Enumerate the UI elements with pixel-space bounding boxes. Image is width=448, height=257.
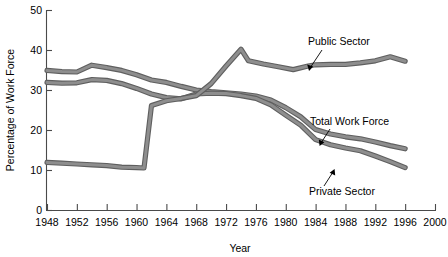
x-axis-title: Year: [229, 242, 251, 254]
x-tick-label: 1984: [304, 216, 328, 228]
x-tick-label: 1948: [35, 216, 59, 228]
public-sector-label: Public Sector: [308, 35, 370, 47]
x-tick-label: 1968: [185, 216, 209, 228]
y-tick-label: 10: [30, 164, 42, 176]
x-axis-tick-labels: 1948195219561960196419681972197619801984…: [35, 216, 447, 228]
x-tick-label: 1956: [95, 216, 119, 228]
x-tick-label: 1996: [393, 216, 417, 228]
total-work-force-label: Total Work Force: [310, 115, 389, 127]
y-axis-ticks: [47, 11, 53, 211]
annotation-private-sector: Private Sector: [309, 169, 375, 197]
private-sector-leader-line: [324, 172, 333, 186]
x-axis-ticks: [48, 204, 436, 211]
chart-svg: 01020304050 1948195219561960196419681972…: [0, 0, 448, 257]
y-tick-label: 30: [30, 84, 42, 96]
y-axis-title: Percentage of Work Force: [4, 49, 16, 172]
x-tick-label: 1964: [155, 216, 179, 228]
x-tick-label: 2000: [423, 216, 447, 228]
x-tick-label: 1952: [65, 216, 89, 228]
data-series-layer: [47, 49, 405, 168]
y-tick-label: 50: [30, 4, 42, 16]
x-tick-label: 1980: [274, 216, 298, 228]
x-tick-label: 1976: [244, 216, 268, 228]
y-tick-label: 0: [36, 204, 42, 216]
y-tick-label: 40: [30, 44, 42, 56]
private-sector-label: Private Sector: [309, 185, 375, 197]
private-sector-arrowhead: [330, 169, 336, 175]
x-tick-label: 1988: [334, 216, 358, 228]
y-tick-label: 20: [30, 124, 42, 136]
x-tick-label: 1972: [214, 216, 238, 228]
x-tick-label: 1960: [125, 216, 149, 228]
line-chart: 01020304050 1948195219561960196419681972…: [0, 0, 448, 257]
x-tick-label: 1992: [364, 216, 388, 228]
y-axis-tick-labels: 01020304050: [30, 4, 42, 216]
plot-axes: [46, 10, 436, 211]
